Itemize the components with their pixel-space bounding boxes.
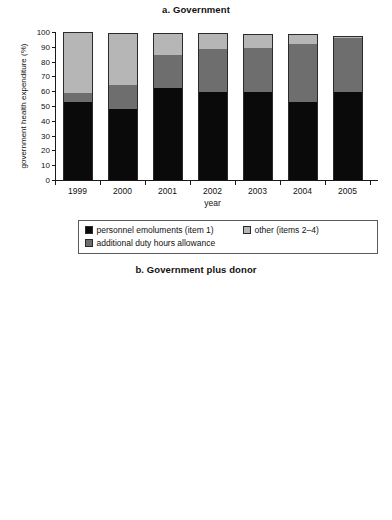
x-tick-label: 2004 [280,186,325,196]
bar-segment-personnel [198,92,228,180]
legend-label: personnel emoluments (item 1) [97,225,214,235]
bar-segment-personnel [108,109,138,180]
legend-label: additional duty hours allowance [97,238,216,248]
bar-segment-additional-duty [198,49,228,92]
legend-a: personnel emoluments (item 1)other (item… [78,220,378,254]
bar-segment-other [153,33,183,54]
bar-segment-personnel [333,92,363,180]
y-tick-label: 30 [25,131,50,140]
x-tick [145,181,146,185]
legend-label: other (items 2–4) [255,225,319,235]
legend-item-additional[interactable]: additional duty hours allowance [85,238,215,248]
x-tick [100,181,101,185]
chart-panel-government: a. Government 01020304050607080901001999… [0,0,392,260]
y-tick [52,76,56,77]
y-tick [52,62,56,63]
x-tick-label: 2005 [325,186,370,196]
panel-a-title: a. Government [0,4,392,15]
y-tick [52,121,56,122]
bar-segment-other [108,33,138,86]
stacked-bar [288,32,318,180]
y-tick-label: 40 [25,116,50,125]
legend-swatch-icon [85,226,93,234]
x-tick-label: 2000 [100,186,145,196]
x-tick-label: 2003 [235,186,280,196]
stacked-bar [153,32,183,180]
x-tick [55,181,56,185]
x-tick [370,181,371,185]
bar-segment-other [243,34,273,47]
bar-segment-additional-duty [288,44,318,102]
x-tick-label: 2002 [190,186,235,196]
y-tick-label: 90 [25,42,50,51]
y-tick-label: 80 [25,57,50,66]
panel-b-title: b. Government plus donor [0,264,392,275]
y-tick [52,150,56,151]
stacked-bar [63,32,93,180]
bar-segment-personnel [153,88,183,180]
bar-segment-additional-duty [63,93,93,102]
chart-panel-government-plus-donor: b. Government plus donor 020406080100199… [0,260,392,520]
y-tick-label: 20 [25,146,50,155]
bar-segment-additional-duty [333,38,363,92]
y-tick [52,91,56,92]
y-tick [52,32,56,33]
bar-segment-other [63,32,93,93]
y-tick-label: 60 [25,87,50,96]
y-tick-label: 50 [25,102,50,111]
y-tick [52,165,56,166]
stacked-bar [108,32,138,180]
x-tick-label: 2001 [145,186,190,196]
legend-swatch-icon [85,239,93,247]
y-axis-label: government health expenditure (%) [19,32,28,180]
y-tick-label: 10 [25,161,50,170]
y-tick-label: 0 [25,176,50,185]
stacked-bar [243,32,273,180]
bar-segment-other [198,33,228,49]
bar-segment-other [288,34,318,44]
bar-segment-personnel [63,102,93,180]
x-axis-line [55,180,378,181]
stacked-bar [333,32,363,180]
y-tick [52,136,56,137]
bar-segment-additional-duty [153,55,183,88]
plot-area-a: 0102030405060708090100199920002001200220… [55,32,370,180]
legend-item-other[interactable]: other (items 2–4) [243,225,319,235]
bar-segment-other [333,36,363,38]
bar-segment-additional-duty [108,85,138,109]
y-tick [52,47,56,48]
x-tick [325,181,326,185]
y-tick-label: 100 [25,28,50,37]
x-tick [235,181,236,185]
y-tick-label: 70 [25,72,50,81]
legend-item-personnel[interactable]: personnel emoluments (item 1) [85,225,214,235]
x-tick [280,181,281,185]
stacked-bar [198,32,228,180]
bar-segment-additional-duty [243,48,273,92]
bar-segment-personnel [243,92,273,180]
legend-swatch-icon [243,226,251,234]
bar-segment-personnel [288,102,318,180]
x-tick-label: 1999 [55,186,100,196]
x-tick [190,181,191,185]
y-tick [52,106,56,107]
x-axis-label: year [55,198,370,208]
